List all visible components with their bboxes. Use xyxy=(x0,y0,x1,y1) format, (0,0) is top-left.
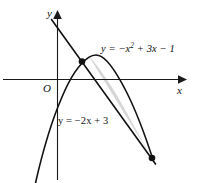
line-equation-label: y = −2x + 3 xyxy=(58,116,108,127)
x-axis-arrow-icon xyxy=(178,75,187,84)
y-axis-label: y xyxy=(47,8,52,19)
shaded-region xyxy=(89,56,152,158)
parabola-equation-lhs: y = −x xyxy=(101,43,130,54)
graph-canvas xyxy=(0,0,197,183)
intersection-point-lower xyxy=(149,155,156,162)
line-curve xyxy=(52,20,156,165)
y-axis-arrow-icon xyxy=(53,10,62,19)
parabola-equation-rhs: + 3x − 1 xyxy=(134,43,175,54)
origin-label: O xyxy=(43,83,51,94)
math-figure: y x O y = −x2 + 3x − 1 y = −2x + 3 xyxy=(0,0,197,183)
parabola-equation-label: y = −x2 + 3x − 1 xyxy=(101,44,175,55)
intersection-point-upper xyxy=(79,58,86,65)
x-axis-label: x xyxy=(177,85,182,96)
